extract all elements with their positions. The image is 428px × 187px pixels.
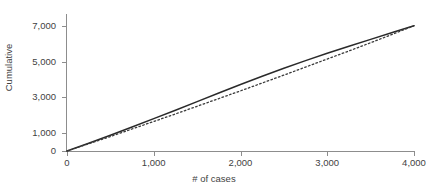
- x-axis-tick-label: 0: [64, 158, 69, 168]
- x-axis-tick-label: 4,000: [402, 158, 426, 168]
- x-axis-tick: [414, 152, 415, 156]
- y-axis-tick: [62, 97, 66, 98]
- x-axis-tick: [67, 152, 68, 156]
- y-axis-tick-label: 7,000: [32, 21, 56, 31]
- x-axis-tick: [154, 152, 155, 156]
- y-axis-tick-label: 1,000: [32, 128, 56, 138]
- x-axis-tick: [327, 152, 328, 156]
- y-axis-title: Cumulative: [3, 33, 14, 103]
- y-axis-tick-label: 3,000: [32, 92, 56, 102]
- chart-title: Weibull cumulative fit chart: [60, 0, 152, 2]
- y-axis-tick-label: 5,000: [32, 57, 56, 67]
- x-axis-tick-label: 1,000: [142, 158, 166, 168]
- x-axis-title: # of cases: [0, 173, 428, 184]
- y-axis-tick: [62, 62, 66, 63]
- y-axis-tick: [62, 133, 66, 134]
- x-axis-tick-label: 2,000: [229, 158, 253, 168]
- x-axis-tick: [241, 152, 242, 156]
- chart-svg: [67, 15, 414, 151]
- series-group: [67, 26, 414, 151]
- plot-area: [67, 15, 414, 151]
- y-axis-tick: [62, 26, 66, 27]
- x-axis-tick-label: 3,000: [315, 158, 339, 168]
- y-axis-tick-label: 0: [51, 146, 56, 156]
- y-axis-tick: [62, 151, 66, 152]
- series-line: [67, 26, 414, 151]
- cumulative-fit-chart: Weibull cumulative fit chart 01,0003,000…: [0, 0, 428, 187]
